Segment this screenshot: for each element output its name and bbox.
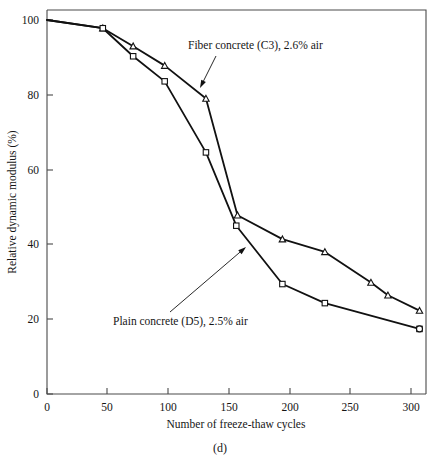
x-tick-label: 150 [220,401,238,413]
plot-frame [47,10,426,394]
data-point-marker [234,212,240,218]
panel-label: (d) [213,441,227,455]
data-point-marker [130,54,135,59]
data-point-marker [416,326,422,332]
annotation-leader-line [170,251,241,312]
x-axis-label: Number of freeze-thaw cycles [167,418,306,431]
series-line-plain-concrete [47,20,419,329]
data-point-marker [322,300,327,305]
y-axis-tick-labels: 0 20 40 60 80 100 [22,14,40,400]
data-point-marker [162,79,167,84]
y-tick-label: 0 [33,388,39,400]
x-tick-label: 250 [341,401,359,413]
y-tick-label: 40 [28,238,40,250]
annotation-arrow-head [200,80,206,88]
figure-container: 0 50 100 150 200 250 300 0 20 40 60 80 1… [0,0,440,458]
data-point-marker [203,150,208,155]
y-axis-label: Relative dynamic modulus (%) [6,130,19,274]
y-tick-label: 20 [28,313,40,325]
y-axis-ticks [47,20,53,394]
x-tick-label: 300 [402,401,420,413]
x-axis-tick-labels: 0 50 100 150 200 250 300 [44,401,420,413]
x-tick-label: 50 [101,401,113,413]
y-tick-label: 60 [28,164,40,176]
data-point-marker [100,26,105,31]
x-axis-ticks [47,388,411,394]
x-tick-label: 100 [159,401,177,413]
x-tick-label: 200 [281,401,299,413]
y-tick-label: 80 [28,89,40,101]
y-tick-label: 100 [22,14,40,26]
series-line-fiber-concrete [47,20,419,311]
x-tick-label: 0 [44,401,50,413]
data-point-marker [234,223,239,228]
data-point-marker [280,281,285,286]
series-annotation-label: Plain concrete (D5), 2.5% air [113,315,248,328]
series-annotation-label: Fiber concrete (C3), 2.6% air [188,39,323,52]
annotation-leader-line [203,56,216,83]
freeze-thaw-modulus-chart: 0 50 100 150 200 250 300 0 20 40 60 80 1… [0,0,440,458]
